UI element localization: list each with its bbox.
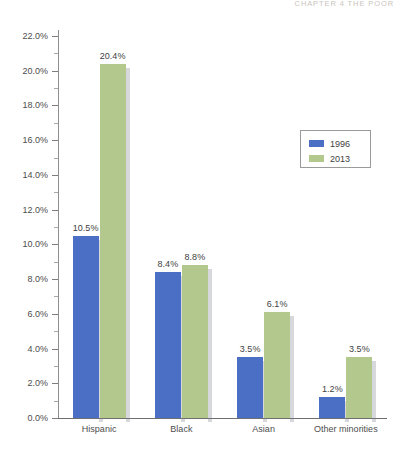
y-axis-line: [58, 30, 59, 419]
y-tick-major: [52, 244, 58, 245]
y-axis-label: 10.0%: [22, 239, 48, 249]
legend-item-1996: 1996: [309, 137, 370, 150]
y-axis-label: 22.0%: [22, 31, 48, 41]
bar-fill: [237, 357, 263, 418]
legend-swatch-icon-1996: [309, 140, 324, 147]
y-axis-label: 14.0%: [22, 170, 48, 180]
y-axis-label: 12.0%: [22, 205, 48, 215]
bar-value-label: 10.5%: [73, 223, 99, 233]
y-tick-minor: [54, 227, 58, 228]
bar-value-label: 1.2%: [322, 384, 343, 394]
y-tick-minor: [54, 262, 58, 263]
bar-fill: [155, 272, 181, 418]
y-tick-major: [52, 140, 58, 141]
y-axis-label: 18.0%: [22, 100, 48, 110]
bar-asian-1996: [237, 357, 263, 418]
bar-fill: [319, 397, 345, 418]
y-tick-major: [52, 314, 58, 315]
x-axis-label-hispanic: Hispanic: [82, 424, 117, 434]
y-tick-major: [52, 105, 58, 106]
y-axis-label: 6.0%: [27, 309, 48, 319]
y-tick-major: [52, 279, 58, 280]
bar-asian-2013: [264, 312, 290, 418]
y-tick-major: [52, 36, 58, 37]
y-axis-label: 16.0%: [22, 135, 48, 145]
y-tick-minor: [54, 88, 58, 89]
x-axis-label-asian: Asian: [252, 424, 275, 434]
bar-value-label: 20.4%: [100, 51, 126, 61]
bar-fill: [264, 312, 290, 418]
bar-value-label: 3.5%: [240, 344, 261, 354]
y-tick-minor: [54, 366, 58, 367]
y-tick-minor: [54, 53, 58, 54]
y-axis-label: 0.0%: [27, 413, 48, 423]
bar-fill: [73, 236, 99, 418]
bar-fill: [182, 265, 208, 418]
legend-swatch-icon-2013: [309, 155, 324, 162]
y-tick-minor: [54, 331, 58, 332]
chart-legend: 1996 2013: [300, 130, 371, 168]
y-tick-minor: [54, 158, 58, 159]
y-tick-minor: [54, 123, 58, 124]
y-axis-label: 2.0%: [27, 378, 48, 388]
y-axis-label: 4.0%: [27, 344, 48, 354]
bar-value-label: 6.1%: [267, 299, 288, 309]
y-tick-minor: [54, 192, 58, 193]
bar-value-label: 8.8%: [185, 252, 206, 262]
bar-other-minorities-2013: [346, 357, 372, 418]
bar-shadow: [208, 269, 212, 422]
bar-other-minorities-1996: [319, 397, 345, 418]
bar-shadow: [290, 316, 294, 422]
legend-label-1996: 1996: [330, 139, 350, 149]
x-axis-label-black: Black: [170, 424, 192, 434]
legend-label-2013: 2013: [330, 154, 350, 164]
bar-black-2013: [182, 265, 208, 418]
bar-hispanic-2013: [100, 64, 126, 418]
y-tick-major: [52, 175, 58, 176]
y-axis-label: 20.0%: [22, 66, 48, 76]
y-tick-minor: [54, 296, 58, 297]
bar-value-label: 8.4%: [158, 259, 179, 269]
grouped-bar-chart: 0.0%2.0%4.0%6.0%8.0%10.0%12.0%14.0%16.0%…: [0, 0, 402, 458]
bar-hispanic-1996: [73, 236, 99, 418]
legend-item-2013: 2013: [309, 152, 370, 165]
y-tick-major: [52, 210, 58, 211]
x-axis-line: [58, 418, 387, 419]
x-axis-label-other-minorities: Other minorities: [314, 424, 378, 434]
y-tick-major: [52, 383, 58, 384]
bar-fill: [100, 64, 126, 418]
bar-shadow: [372, 361, 376, 422]
y-tick-major: [52, 349, 58, 350]
bar-value-label: 3.5%: [349, 344, 370, 354]
bar-shadow: [126, 68, 130, 422]
y-axis-label: 8.0%: [27, 274, 48, 284]
y-tick-minor: [54, 401, 58, 402]
bar-black-1996: [155, 272, 181, 418]
y-tick-major: [52, 418, 58, 419]
bar-fill: [346, 357, 372, 418]
y-tick-major: [52, 71, 58, 72]
